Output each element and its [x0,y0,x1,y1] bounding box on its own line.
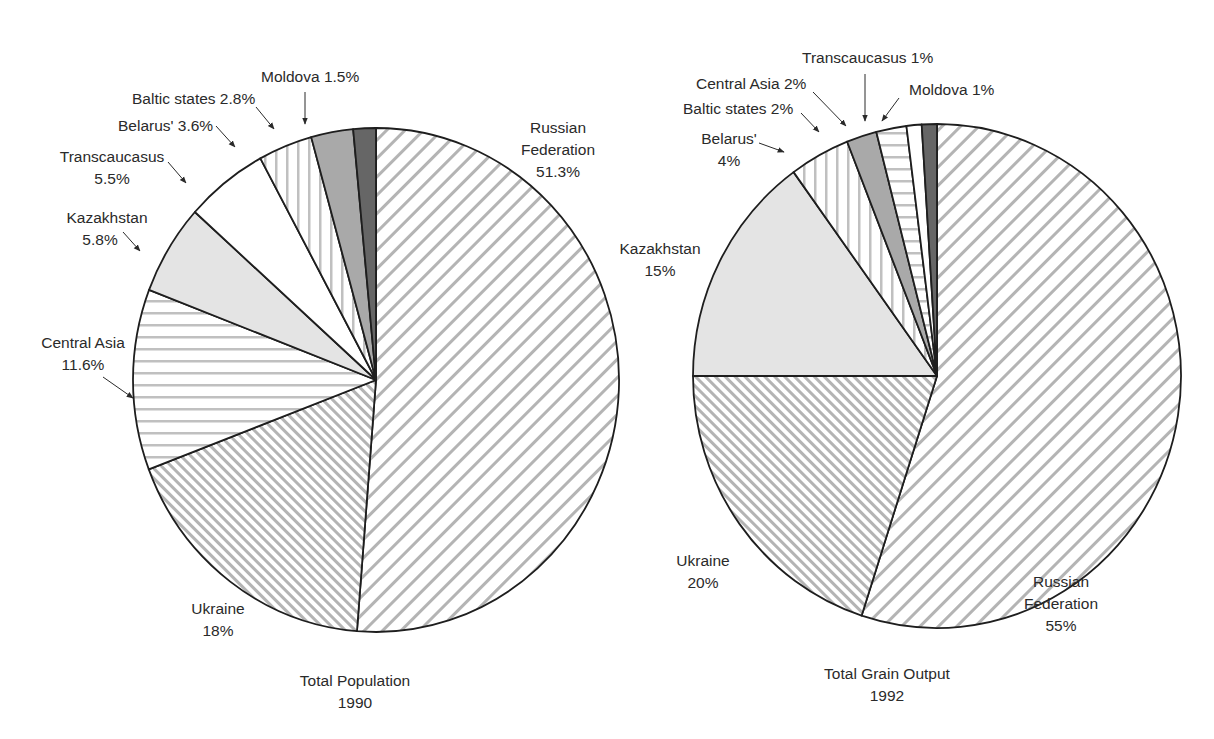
arrow-transcaucasus [168,162,186,183]
label-moldova: Moldova 1% [909,81,995,98]
label-russia-line2: Federation [1024,595,1098,612]
label-ukraine-line1: Ukraine [191,600,244,617]
grain-output-pie-chart [693,124,1181,628]
pie-slice-russian-federation [357,128,619,632]
label-transcaucasus: Transcaucasus 1% [802,49,933,66]
label-transcaucasus-line1: Transcaucasus [60,148,165,165]
label-ukraine-value: 18% [202,622,233,639]
label-kazakhstan-value: 5.8% [82,231,118,248]
population-chart-title: Total Population [300,672,410,689]
arrow-central-asia [103,377,133,398]
label-central-asia-line1: Central Asia [41,334,125,351]
grain-chart-title: Total Grain Output [824,665,950,682]
label-transcaucasus-value: 5.5% [94,170,130,187]
label-russia-value: 55% [1045,617,1076,634]
pie-chart-figure: Russian Federation 51.3% Ukraine 18% Cen… [0,0,1214,739]
arrow-belarus [759,143,784,152]
label-baltic-states: Baltic states 2% [683,100,793,117]
label-russia-line1: Russian [530,119,586,136]
label-russia-value: 51.3% [536,163,580,180]
label-central-asia-value: 11.6% [62,356,105,373]
label-ukraine-line1: Ukraine [676,552,729,569]
arrow-central-asia [813,92,846,126]
label-russia-line1: Russian [1033,573,1089,590]
population-chart-year: 1990 [338,694,373,711]
label-belarus: Belarus' 3.6% [118,117,213,134]
population-pie-chart [133,128,619,632]
label-kazakhstan-line1: Kazakhstan [67,209,148,226]
label-russia-line2: Federation [521,141,595,158]
label-kazakhstan-line1: Kazakhstan [620,240,701,257]
label-central-asia: Central Asia 2% [696,75,806,92]
label-moldova: Moldova 1.5% [261,68,359,85]
grain-chart-year: 1992 [870,687,904,704]
label-kazakhstan-value: 15% [644,262,675,279]
arrow-moldova [882,98,899,121]
arrow-belarus [216,126,235,147]
label-belarus-line1: Belarus' [701,130,757,147]
arrow-baltic-states [801,113,819,132]
label-ukraine-value: 20% [687,574,718,591]
label-baltic-states: Baltic states 2.8% [132,90,255,107]
arrow-kazakhstan [123,232,140,251]
arrow-baltic-states [256,107,274,129]
label-belarus-value: 4% [718,152,741,169]
